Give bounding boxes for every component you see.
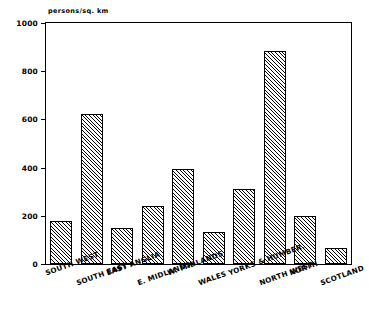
bar-chart: persons/sq. km 02004006008001000 SOUTH W… [0,0,369,309]
x-axis-label: WALES [197,269,228,287]
y-axis-tick-label: 400 [22,164,38,173]
y-axis-tick-label: 200 [22,212,38,221]
y-axis-tick-label: 1000 [16,19,38,28]
chart-title-clipped [0,0,369,3]
y-axis-caption: persons/sq. km [48,7,109,15]
y-axis-tick: 1000 [41,23,46,24]
y-axis-tick-label: 0 [33,260,38,269]
bar[interactable] [264,51,286,264]
bar[interactable] [233,189,255,264]
y-axis-tick: 600 [41,119,46,120]
y-axis-tick-label: 600 [22,115,38,124]
x-axis-label: SCOTLAND [319,263,365,287]
plot-area: 02004006008001000 [45,22,352,265]
y-axis-tick: 0 [41,264,46,265]
bar[interactable] [172,169,194,264]
bar[interactable] [50,221,72,264]
y-axis-tick: 800 [41,71,46,72]
y-axis-tick: 400 [41,168,46,169]
bars-layer [46,23,351,264]
bar[interactable] [294,216,316,264]
bar[interactable] [81,114,103,264]
y-axis-tick: 200 [41,216,46,217]
y-axis-tick-label: 800 [22,67,38,76]
bar[interactable] [325,248,347,264]
